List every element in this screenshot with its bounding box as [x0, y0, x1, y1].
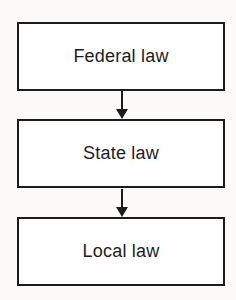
arrow-down-icon [116, 189, 128, 217]
arrow-down-icon [116, 91, 128, 119]
arrow-head [116, 207, 128, 217]
node-federal-law: Federal law [17, 22, 225, 91]
node-state-law-label: State law [83, 143, 159, 164]
node-local-law-label: Local law [83, 241, 160, 262]
arrow-shaft [121, 91, 123, 110]
law-hierarchy-diagram: Federal law State law Local law [0, 0, 236, 300]
node-federal-law-label: Federal law [73, 46, 168, 67]
node-local-law: Local law [17, 217, 225, 286]
arrow-shaft [121, 189, 123, 208]
arrow-head [116, 109, 128, 119]
node-state-law: State law [17, 119, 225, 188]
